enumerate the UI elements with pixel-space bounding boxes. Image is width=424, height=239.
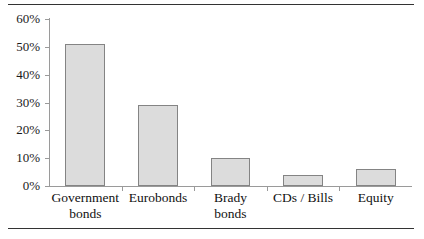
y-tick-mark [45,47,49,48]
bar [283,175,323,186]
y-tick-mark [45,75,49,76]
y-tick-label: 40% [16,66,40,83]
y-tick-label: 30% [16,94,40,111]
bottom-rule [8,228,414,229]
x-axis-line [48,186,412,187]
bar [211,158,251,186]
bar [138,105,178,186]
x-axis-label: Government bonds [49,190,122,222]
x-axis-label: Brady bonds [194,190,267,222]
y-tick-mark [45,19,49,20]
y-tick-label: 60% [16,10,40,27]
x-axis-label: Eurobonds [122,190,195,206]
y-tick-label: 20% [16,121,40,138]
y-tick-label: 10% [16,149,40,166]
y-tick-mark [45,103,49,104]
top-rule [8,4,414,5]
y-tick-mark [45,130,49,131]
bar [356,169,396,186]
y-tick-mark [45,158,49,159]
x-axis-label: Equity [339,190,412,206]
y-tick-label: 50% [16,38,40,55]
x-axis-label: CDs / Bills [267,190,340,206]
y-tick-label: 0% [23,177,40,194]
figure-container: 0%10%20%30%40%50%60% Government bondsEur… [0,0,424,239]
y-tick-mark [45,186,49,187]
bar [65,44,105,186]
plot-area: 0%10%20%30%40%50%60% [49,19,412,186]
